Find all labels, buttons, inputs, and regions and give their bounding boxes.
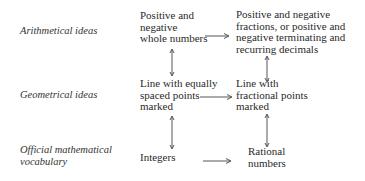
double-arrow-vertical-icon xyxy=(170,49,174,76)
double-arrow-vertical-icon xyxy=(265,56,269,82)
double-arrow-vertical-icon xyxy=(265,114,269,147)
arrows-layer xyxy=(0,0,365,181)
arrow-right-icon xyxy=(203,159,231,164)
arrow-right-icon xyxy=(200,95,232,100)
arrow-right-icon xyxy=(205,34,229,39)
double-arrow-vertical-icon xyxy=(170,116,174,149)
